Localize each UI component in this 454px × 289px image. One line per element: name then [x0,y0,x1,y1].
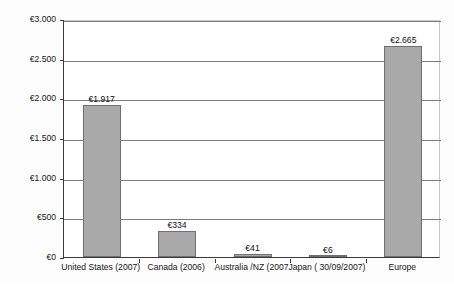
bar [83,105,121,257]
y-tick-label: €500 [0,212,56,222]
x-category-label: Europe [388,262,416,272]
x-category-label: United States (2007) [61,262,140,272]
bar-value-label: €334 [168,220,187,230]
bar-value-label: €6 [323,245,333,255]
bar-value-label: €2.665 [390,35,416,45]
y-tick-mark [60,258,64,259]
y-tick-label: €2.500 [0,54,56,64]
y-tick-mark [60,179,64,180]
x-category-label: Australia /NZ (2007 [214,262,288,272]
bar [384,46,422,257]
bar [309,255,347,257]
bar-chart: Total RI in billions Euro €0€500€1.000€1… [0,0,454,289]
y-tick-mark [60,20,64,21]
bar-value-label: €41 [245,243,259,253]
bar-value-label: €1.917 [89,94,115,104]
y-tick-label: €1.000 [0,173,56,183]
bar [234,254,272,257]
y-tick-mark [60,99,64,100]
gridline [64,21,441,22]
page-edge [0,283,454,289]
x-category-label: Canada (2006) [147,262,204,272]
y-tick-label: €0 [0,252,56,262]
y-tick-label: €1.500 [0,133,56,143]
y-tick-mark [60,218,64,219]
y-tick-label: €3.000 [0,14,56,24]
x-category-label: Japan ( 30/09/2007) [288,262,365,272]
y-tick-mark [60,60,64,61]
y-tick-label: €2.000 [0,93,56,103]
plot-area: €0€500€1.000€1.500€2.000€2.500€3.000 €1.… [63,20,440,258]
y-tick-mark [60,139,64,140]
bar [158,231,196,257]
x-tick-mark [366,259,367,263]
